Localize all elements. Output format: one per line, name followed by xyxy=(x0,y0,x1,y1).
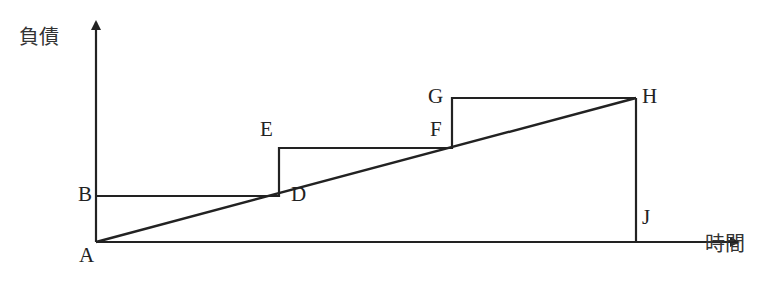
point-label-a: A xyxy=(79,245,94,266)
point-label-j: J xyxy=(642,207,650,228)
point-label-b: B xyxy=(78,184,92,205)
diagonal-line-a-h xyxy=(96,98,636,242)
y-axis-label: 負債 xyxy=(19,27,59,47)
diagram-canvas xyxy=(0,0,766,283)
point-label-h: H xyxy=(642,86,657,107)
staircase-line xyxy=(96,98,636,196)
point-label-g: G xyxy=(428,86,443,107)
x-axis-label: 時間 xyxy=(705,234,745,254)
point-label-d: D xyxy=(291,184,306,205)
debt-time-diagram: 負債 時間 A B D E F G H J xyxy=(0,0,766,283)
point-label-f: F xyxy=(430,119,442,140)
point-label-e: E xyxy=(260,119,273,140)
